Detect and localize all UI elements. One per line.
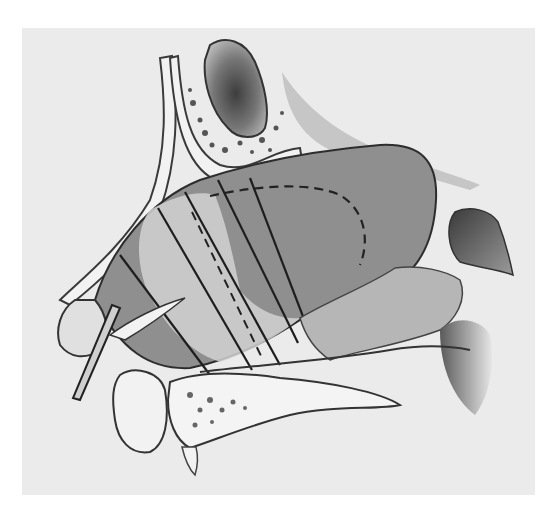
premaxilla-bone [113, 370, 167, 452]
frontal-sinus [205, 40, 267, 137]
soft-palate-shadow [440, 320, 492, 415]
posterior-turbinate [449, 209, 513, 275]
palate-spine [182, 447, 197, 475]
palate-bone [168, 373, 400, 448]
nasal-anatomy-illustration [0, 0, 558, 511]
